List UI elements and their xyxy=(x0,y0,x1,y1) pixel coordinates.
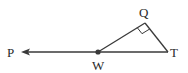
point-w-dot xyxy=(95,49,100,54)
segment-qt xyxy=(145,23,168,52)
right-angle-marker xyxy=(137,28,149,34)
label-w: W xyxy=(92,58,105,73)
label-t: T xyxy=(170,45,178,60)
label-q: Q xyxy=(139,5,149,20)
diagram-canvas: P W T Q xyxy=(0,0,188,73)
segment-wq xyxy=(98,23,145,52)
geometry-diagram: P W T Q xyxy=(0,0,188,73)
label-p: P xyxy=(7,45,14,60)
